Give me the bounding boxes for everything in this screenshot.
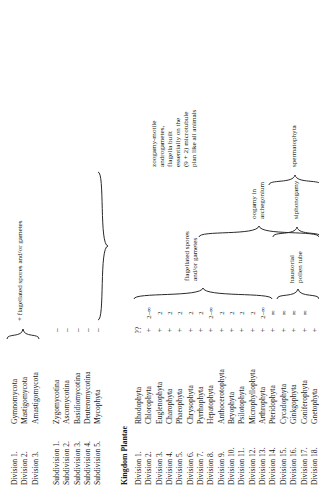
rotated-figure-canvas: Division 1. Division 2. Division 3. Gymn…: [0, 0, 319, 497]
fungi-division-brace: [6, 325, 40, 341]
figure-frame: Division 1. Division 2. Division 3. Gymn…: [0, 0, 319, 497]
flagella-sign: +: [175, 323, 185, 337]
rank-label: Subdivision 1.: [52, 441, 61, 485]
flagella-sign: +: [186, 323, 196, 337]
flagella-sign: +: [289, 323, 299, 337]
taxon-name: Coniferophyta: [300, 369, 310, 424]
haustorial-brace: [276, 286, 319, 301]
flagella-sign: +: [196, 323, 206, 337]
taxon-name: Rhodophyta: [134, 369, 144, 424]
flagella-sign: +: [155, 323, 165, 337]
rank-label: Division 10.: [227, 447, 237, 485]
fungi-sign-column: – – – – –: [52, 323, 104, 337]
flagella-number: ∞: [279, 305, 289, 321]
flagella-number: ∞: [300, 305, 310, 321]
flagella-sign: +: [144, 323, 154, 337]
fungi-subdivision-rank-column: Subdivision 1. Subdivision 2. Subdivisio…: [52, 441, 104, 485]
rank-label: Division 5.: [175, 447, 185, 485]
flagella-number: 2: [155, 305, 165, 321]
rank-label: Subdivision 3.: [73, 441, 82, 485]
rank-label: Division 12.: [248, 447, 258, 485]
fungi-subdivision-name-column: Zygomycotina Ascomycotina Basidiomycotin…: [52, 371, 104, 424]
rank-label: Subdivision 4.: [83, 441, 92, 485]
spermatophyta-annotation: spermatophyta: [290, 125, 298, 167]
siphonogamy-brace: [272, 223, 319, 239]
taxon-name: Bryophyta: [227, 369, 237, 424]
flagella-sign: +: [310, 323, 319, 337]
taxon-name: Zygomycotina: [52, 380, 61, 424]
rank-label: Division 1.: [10, 451, 19, 485]
zoogamy-underbrace: [96, 171, 110, 321]
rank-label: Division 3.: [155, 447, 165, 485]
rank-label: Division 16.: [289, 447, 299, 485]
taxon-name: Amastigomycota: [31, 372, 40, 424]
taxon-name: Arthrophyta: [258, 369, 268, 424]
taxon-name: Cycadophyta: [279, 369, 289, 424]
flagella-number: 2: [196, 305, 206, 321]
flagella-sign: +: [300, 323, 310, 337]
rank-label: Division 4.: [165, 447, 175, 485]
flagella-number: 2–∞: [206, 305, 216, 321]
rank-label: Division 7.: [196, 447, 206, 485]
flagella-sign: +: [217, 323, 227, 337]
flagella-number: 2: [237, 305, 247, 321]
flagella-number: 2–∞: [144, 305, 154, 321]
rank-label: Division 17.: [300, 447, 310, 485]
flagella-sign: –: [93, 328, 102, 332]
flagella-sign: –: [83, 328, 92, 332]
taxon-name: Euglenophyta: [155, 369, 165, 424]
rank-label: Division 2.: [144, 447, 154, 485]
rank-label: Division 1.: [134, 447, 144, 485]
plantae-flagellated-brace: [133, 284, 273, 301]
flagella-sign: +: [279, 323, 289, 337]
flagella-sign: +: [165, 323, 175, 337]
flagella-number: 2: [227, 305, 237, 321]
plantae-name-column: RhodophytaChlorophytaEuglenophytaCharoph…: [134, 369, 319, 424]
flagella-number: 2: [175, 305, 185, 321]
taxon-name: Mycophyta: [93, 389, 102, 424]
rank-label: Division 11.: [237, 447, 247, 485]
flagella-sign: +: [227, 323, 237, 337]
flagella-sign: +: [258, 323, 268, 337]
taxon-name: Deuteromycotina: [83, 371, 92, 424]
flagella-number: [310, 305, 319, 321]
flagella-sign: –: [62, 328, 71, 332]
flagella-sign: +: [248, 323, 258, 337]
taxon-name: Mastigomycota: [20, 377, 29, 424]
taxon-name: Pyrrhophyta: [196, 369, 206, 424]
flagella-number: 2: [165, 305, 175, 321]
taxon-name: Psilotophyta: [237, 369, 247, 424]
taxon-name: Charophyta: [165, 369, 175, 424]
flagella-sign: ??: [134, 323, 144, 337]
oogamy-annotation: oogamy in archegonium: [250, 182, 266, 219]
rank-label: Division 15.: [279, 447, 289, 485]
taxon-name: Pteridophyta: [268, 369, 278, 424]
taxon-name: Chlorophyta: [144, 369, 154, 424]
flagella-number: ∞: [268, 305, 278, 321]
zoogamy-annotation: zoogamy-motile androgametes, flagella bu…: [150, 110, 199, 167]
rank-label: Division 8.: [206, 447, 216, 485]
rank-label: Subdivision 5.: [93, 441, 102, 485]
rank-label: Division 9.: [217, 447, 227, 485]
rank-label: Division 6.: [186, 447, 196, 485]
taxon-name: Gnetophyta: [310, 369, 319, 424]
plantae-sign-column: ??++++++++++++++++++: [134, 323, 319, 337]
taxon-name: Ascomycotina: [62, 380, 71, 424]
flagella-number: [134, 305, 144, 321]
rank-label: Division 2.: [20, 451, 29, 485]
taxon-name: Phaeophyta: [175, 369, 185, 424]
fungi-rank-column: Division 1. Division 2. Division 3.: [10, 451, 41, 485]
flagella-sign: +: [268, 323, 278, 337]
figure-sheet: Division 1. Division 2. Division 3. Gymn…: [0, 0, 319, 497]
taxon-name: Basidiomycotina: [73, 373, 82, 424]
plantae-flagella-number-column: 2–∞222222–∞22222–∞∞∞∞∞: [134, 305, 319, 321]
taxon-name: Gymnomycota: [10, 379, 19, 424]
haustorial-pollen-tube-annotation: haustorial pollen tube: [288, 251, 304, 283]
rank-label: Subdivision 2.: [62, 441, 71, 485]
flagella-sign: +: [237, 323, 247, 337]
rank-label: Division 14.: [268, 447, 278, 485]
taxon-name: Hepatophyta: [206, 369, 216, 424]
flagella-sign: –: [73, 328, 82, 332]
kingdom-plantae-heading: Kingdom Plantae: [120, 426, 129, 485]
rank-label: Division 3.: [31, 451, 40, 485]
